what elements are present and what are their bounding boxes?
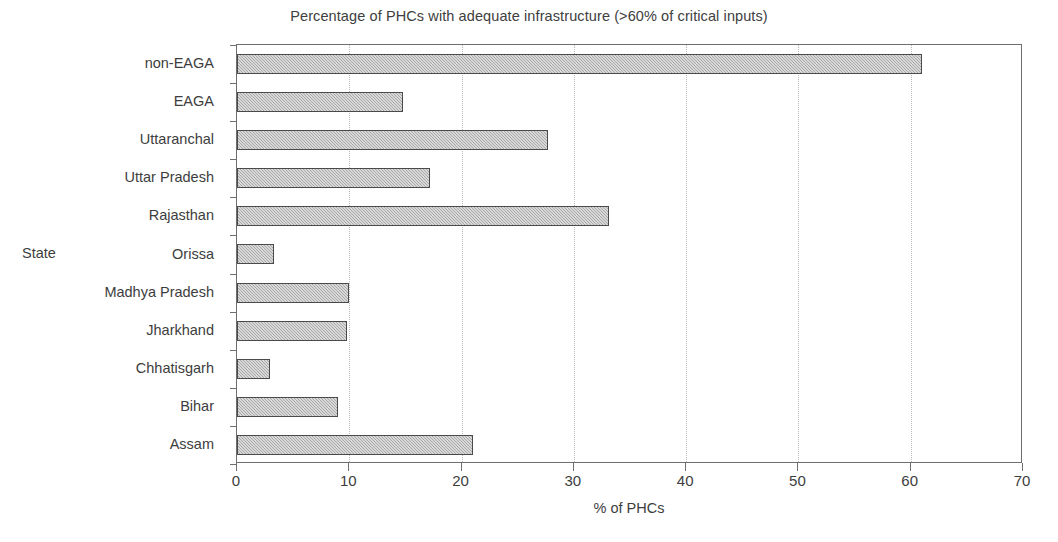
plot-area	[236, 44, 1022, 463]
x-axis-tick-label: 10	[318, 472, 378, 489]
bar-row	[237, 235, 1021, 273]
bar-row	[237, 312, 1021, 350]
y-axis-tick	[230, 388, 237, 389]
bar-row	[237, 159, 1021, 197]
y-axis-label: Jharkhand	[0, 321, 226, 339]
bar-row	[237, 121, 1021, 159]
bar-chart: Percentage of PHCs with adequate infrast…	[0, 0, 1058, 542]
x-axis-tick-label: 0	[206, 472, 266, 489]
x-axis-tick-label: 60	[880, 472, 940, 489]
y-axis-label: Rajasthan	[0, 206, 226, 224]
x-axis-title: % of PHCs	[236, 500, 1022, 516]
y-axis-label: Uttar Pradesh	[0, 168, 226, 186]
bar	[237, 397, 338, 417]
bar	[237, 359, 270, 379]
bar-row	[237, 83, 1021, 121]
y-axis-tick	[230, 312, 237, 313]
plot-inner	[237, 45, 1021, 462]
bar	[237, 130, 548, 150]
x-axis-tick	[685, 463, 686, 471]
y-axis-tick	[230, 159, 237, 160]
y-axis-tick	[230, 45, 237, 46]
y-axis-tick	[230, 350, 237, 351]
bar-row	[237, 45, 1021, 83]
y-axis-label: Bihar	[0, 397, 226, 415]
y-axis-label: Assam	[0, 435, 226, 453]
y-axis-label: Madhya Pradesh	[0, 283, 226, 301]
x-axis-tick	[797, 463, 798, 471]
x-axis-tick	[573, 463, 574, 471]
x-axis-tick	[910, 463, 911, 471]
x-axis-tick	[1022, 463, 1023, 471]
bar-row	[237, 350, 1021, 388]
x-axis-tick	[348, 463, 349, 471]
bar	[237, 244, 274, 264]
y-axis-tick	[230, 197, 237, 198]
y-axis-label: Orissa	[0, 245, 226, 263]
bar	[237, 168, 430, 188]
bar	[237, 321, 347, 341]
x-axis-tick-label: 70	[992, 472, 1052, 489]
x-axis-tick-label: 20	[431, 472, 491, 489]
y-axis-label: Chhatisgarh	[0, 359, 226, 377]
y-axis-tick	[230, 274, 237, 275]
x-axis-tick-label: 40	[655, 472, 715, 489]
y-axis-label: EAGA	[0, 92, 226, 110]
bar	[237, 435, 473, 455]
x-axis-tick	[461, 463, 462, 471]
y-axis-tick	[230, 426, 237, 427]
bar-row	[237, 274, 1021, 312]
bar	[237, 92, 403, 112]
x-axis-tick	[236, 463, 237, 471]
bar	[237, 54, 922, 74]
y-axis-tick	[230, 235, 237, 236]
bar	[237, 283, 349, 303]
y-axis-label: Uttaranchal	[0, 130, 226, 148]
bar-row	[237, 388, 1021, 426]
bar-row	[237, 426, 1021, 464]
y-axis-tick	[230, 121, 237, 122]
y-axis-tick	[230, 83, 237, 84]
x-axis-tick-label: 50	[767, 472, 827, 489]
x-axis-tick-label: 30	[543, 472, 603, 489]
y-axis-label: non-EAGA	[0, 54, 226, 72]
bar-row	[237, 197, 1021, 235]
bar	[237, 206, 609, 226]
chart-title: Percentage of PHCs with adequate infrast…	[0, 8, 1058, 24]
